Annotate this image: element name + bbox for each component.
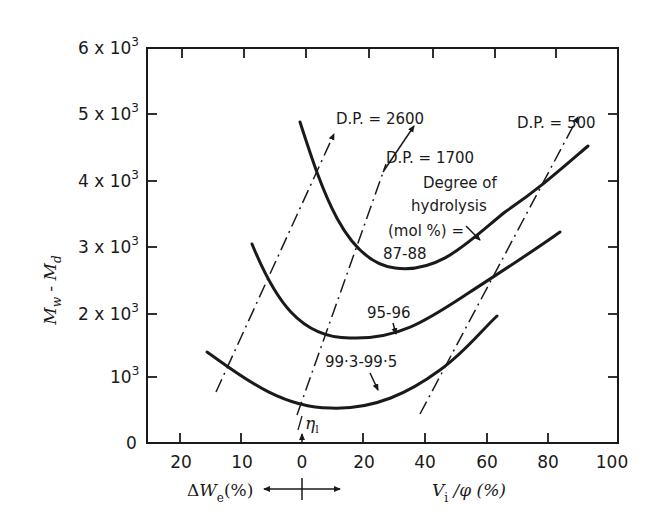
label-hydrolysis-3: (mol %) = — [388, 222, 464, 240]
label-hydrolysis-1: Degree of — [423, 174, 498, 192]
direction-arrows — [264, 478, 340, 500]
x-tick-vi-60: 60 — [476, 452, 498, 472]
x-tick-labels: 20 10 0 20 40 60 80 100 — [170, 452, 628, 472]
x-tick-vi-80: 80 — [537, 452, 559, 472]
label-95-96: 95-96 — [367, 304, 411, 322]
pointer-99-3-99-5 — [370, 373, 378, 390]
label-eta: ηl — [305, 413, 319, 436]
x-axis-title-left: ΔWe(%) — [187, 480, 253, 505]
x-axis-ticks — [180, 48, 556, 443]
y-tick-6000: 6 x 103 — [78, 35, 139, 58]
y-tick-0: 0 — [126, 433, 137, 453]
label-dp-500: D.P. = 500 — [517, 114, 596, 132]
x-tick-dwe-20: 20 — [170, 452, 192, 472]
label-87-88: 87-88 — [383, 245, 427, 263]
x-tick-0: 0 — [297, 452, 308, 472]
label-dp-2600: D.P. = 2600 — [336, 110, 424, 128]
y-axis-title: Mw - Md — [40, 255, 64, 326]
label-dp-1700: D.P. = 1700 — [386, 149, 474, 167]
curve-87-88 — [300, 122, 588, 269]
y-tick-2000: 2 x 103 — [78, 301, 139, 324]
y-tick-labels: 0 103 2 x 103 3 x 103 4 x 103 5 x 103 6 … — [78, 35, 139, 453]
eta-slash — [298, 416, 302, 430]
x-tick-dwe-10: 10 — [231, 452, 253, 472]
chart-figure: 0 103 2 x 103 3 x 103 4 x 103 5 x 103 6 … — [0, 0, 665, 525]
x-axis-title-right: Vi /φ (%) — [432, 480, 506, 505]
x-tick-vi-20: 20 — [353, 452, 375, 472]
x-tick-vi-40: 40 — [414, 452, 436, 472]
y-tick-3000: 3 x 103 — [78, 234, 139, 257]
y-tick-4000: 4 x 103 — [78, 168, 139, 191]
label-99-3-99-5: 99·3-99·5 — [325, 353, 397, 371]
y-tick-1000: 103 — [110, 364, 139, 387]
y-tick-5000: 5 x 103 — [78, 101, 139, 124]
label-hydrolysis-2: hydrolysis — [411, 197, 487, 215]
x-tick-vi-100: 100 — [596, 452, 628, 472]
